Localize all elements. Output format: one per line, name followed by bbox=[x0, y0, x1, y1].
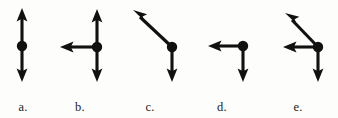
origin-dot bbox=[313, 42, 323, 52]
up-arrow bbox=[92, 9, 103, 47]
up-arrow bbox=[17, 8, 28, 46]
diagram-panel-b: b. bbox=[46, 0, 114, 118]
origin-dot bbox=[167, 42, 177, 52]
origin-dot bbox=[17, 41, 27, 51]
diagram-panel-c: c. bbox=[114, 0, 186, 118]
diagram-panel-e: e. bbox=[258, 0, 338, 118]
down-arrow bbox=[238, 46, 249, 82]
diagram-panel-a: a. bbox=[0, 0, 46, 118]
down-arrow bbox=[313, 47, 324, 82]
left-arrow bbox=[208, 41, 243, 52]
down-arrow bbox=[92, 47, 103, 82]
origin-dot bbox=[238, 41, 248, 51]
panel-label-a: a. bbox=[0, 100, 46, 114]
up-left-diagonal-arrow bbox=[285, 13, 318, 47]
up-left-diagonal-arrow bbox=[133, 10, 172, 47]
vector-diagram-b bbox=[46, 0, 114, 96]
origin-dot bbox=[92, 42, 102, 52]
vector-diagram-a bbox=[0, 0, 46, 96]
left-arrow bbox=[60, 42, 97, 53]
panel-label-c: c. bbox=[114, 100, 186, 114]
vector-diagram-c bbox=[114, 0, 186, 96]
down-arrow bbox=[17, 46, 28, 82]
down-arrow bbox=[167, 47, 178, 82]
vector-diagram-d bbox=[186, 0, 258, 96]
vector-diagram-figure: a. b. bbox=[0, 0, 338, 118]
diagram-panel-d: d. bbox=[186, 0, 258, 118]
panel-label-d: d. bbox=[186, 100, 258, 114]
panel-label-b: b. bbox=[46, 100, 114, 114]
panel-label-e: e. bbox=[258, 100, 338, 114]
vector-diagram-e bbox=[258, 0, 338, 96]
